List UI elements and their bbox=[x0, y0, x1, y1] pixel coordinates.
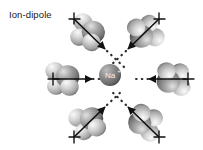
interaction-line-top-right bbox=[110, 51, 126, 66]
sodium-ion-label: Na bbox=[105, 71, 116, 80]
water-molecule-bottom-right bbox=[124, 101, 168, 144]
water-molecule-left bbox=[45, 62, 92, 96]
sodium-ion: Na + bbox=[99, 64, 121, 86]
water-molecule-bottom-left bbox=[66, 101, 110, 144]
water-molecule-top-left bbox=[66, 11, 110, 54]
water-spheres bbox=[124, 101, 168, 144]
ion-dipole-diagram: Na + bbox=[0, 0, 203, 150]
ion-dipole-figure: Ion-dipole bbox=[0, 0, 203, 150]
interaction-line-bottom-left bbox=[107, 90, 123, 105]
interaction-line-bottom-right bbox=[110, 90, 126, 105]
water-molecule-top-right bbox=[124, 11, 168, 54]
sodium-ion-charge: + bbox=[117, 68, 121, 74]
water-molecule-right bbox=[149, 62, 194, 96]
